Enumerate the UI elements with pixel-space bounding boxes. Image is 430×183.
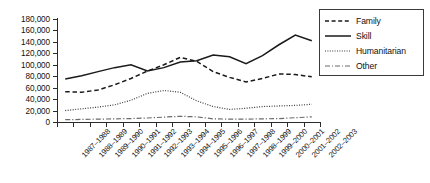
series-line-skill (65, 35, 312, 79)
x-axis-tick-mark (73, 123, 74, 127)
x-axis-tick-label: 1997–1998 (244, 127, 276, 159)
y-axis-labels: 180,000160,000140,000120,000100,00080,00… (0, 12, 50, 132)
series-lines (57, 19, 320, 122)
x-axis-tick-label: 1995–1996 (211, 127, 243, 159)
x-axis-tick-mark (106, 123, 107, 127)
legend-item-skill: Skill (325, 29, 420, 43)
y-axis-tick-label: 120,000 (0, 48, 50, 59)
x-axis-tick-label: 1987–1988 (80, 127, 112, 159)
solid-line-icon (325, 32, 351, 40)
legend-item-family: Family (325, 14, 420, 28)
y-axis-tick-label: 180,000 (0, 14, 50, 25)
x-axis-tick-label: 1992–1993 (162, 127, 194, 159)
legend-item-other: Other (325, 59, 420, 73)
x-axis-tick-mark (90, 123, 91, 127)
legend-label-family: Family (356, 16, 381, 26)
x-axis-tick-label: 1998–1999 (261, 127, 293, 159)
dash-dot-line-icon (325, 62, 351, 70)
y-axis-tick-label: 0 (0, 117, 50, 128)
x-axis-tick-mark (205, 123, 206, 127)
x-axis-tick-mark (254, 123, 255, 127)
x-axis-tick-mark (271, 123, 272, 127)
x-axis-tick-label: 2000–2001 (294, 127, 326, 159)
series-line-other (65, 116, 312, 119)
legend-label-other: Other (356, 61, 377, 71)
x-axis-tick-label: 1999–2000 (277, 127, 309, 159)
x-axis-tick-mark (238, 123, 239, 127)
y-axis-tick-label: 80,000 (0, 71, 50, 82)
dotted-line-icon (325, 47, 351, 55)
legend-label-skill: Skill (356, 31, 371, 41)
x-axis-tick-mark (221, 123, 222, 127)
plot-area (57, 19, 320, 122)
x-axis-tick-mark (57, 123, 58, 127)
x-axis-tick-label: 1996–1997 (228, 127, 260, 159)
x-axis-tick-mark (172, 123, 173, 127)
x-axis-tick-label: 2002–2003 (327, 127, 359, 159)
x-axis-tick-mark (304, 123, 305, 127)
x-axis-tick-mark (123, 123, 124, 127)
x-axis-tick-label: 2001–2002 (310, 127, 342, 159)
legend-item-humanitarian: Humanitarian (325, 44, 420, 58)
x-axis-tick-label: 1989–1990 (113, 127, 145, 159)
x-axis-tick-label: 1991–1992 (146, 127, 178, 159)
chart-legend: Family Skill Humanitarian Other (319, 9, 424, 76)
x-axis-tick-label: 1990–1991 (129, 127, 161, 159)
dashed-line-icon (325, 17, 351, 25)
y-axis-tick-label: 160,000 (0, 25, 50, 36)
series-line-humanitarian (65, 91, 312, 111)
x-axis-tick-mark (287, 123, 288, 127)
y-axis-tick-label: 60,000 (0, 83, 50, 94)
x-axis-tick-mark (320, 123, 321, 127)
y-axis-tick-label: 140,000 (0, 37, 50, 48)
x-axis-tick-label: 1993–1994 (179, 127, 211, 159)
y-axis-tick-label: 40,000 (0, 94, 50, 105)
x-axis-tick-label: 1988–1989 (96, 127, 128, 159)
y-axis-tick-label: 100,000 (0, 60, 50, 71)
chart-screenshot: 180,000160,000140,000120,000100,00080,00… (0, 0, 430, 183)
y-axis-tick-label: 20,000 (0, 106, 50, 117)
x-axis-tick-mark (139, 123, 140, 127)
series-line-family (65, 57, 312, 92)
x-axis-tick-label: 1994–1995 (195, 127, 227, 159)
legend-label-humanitarian: Humanitarian (356, 46, 406, 56)
x-axis-tick-mark (156, 123, 157, 127)
x-axis-tick-mark (189, 123, 190, 127)
